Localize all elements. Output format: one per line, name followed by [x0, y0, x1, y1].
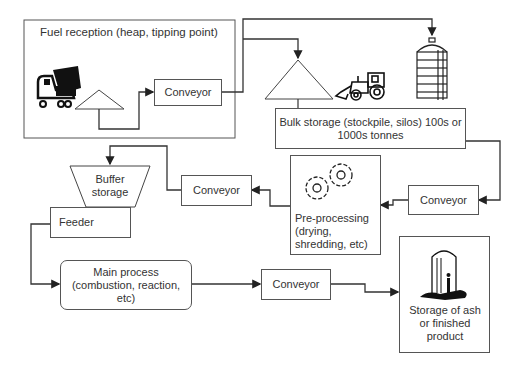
connector-conveyor-preprocessing [381, 200, 408, 205]
connector-conveyor-silo [221, 19, 432, 92]
pre-processing-box: Pre-processing (drying, shredding, etc) [290, 155, 381, 255]
bulk-storage-label: Bulk storage (stockpile, silos) 100s or … [278, 116, 463, 142]
conveyor-1-label: Conveyor [164, 86, 211, 99]
conveyor-3: Conveyor [181, 175, 252, 206]
connector-conveyor-stockpile [243, 39, 298, 58]
conveyor-2-label: Conveyor [420, 194, 467, 207]
heap-icon [75, 90, 124, 109]
feeder-box: Feeder [50, 207, 131, 238]
fuel-reception-label: Fuel reception (heap, tipping point) [40, 26, 220, 39]
conveyor-3-label: Conveyor [193, 184, 240, 197]
stockpile-icon [265, 60, 333, 99]
buffer-storage-label: Buffer storage [88, 173, 132, 199]
connector-conveyor-ash [330, 284, 398, 292]
loader-icon [336, 73, 384, 100]
conveyor-2: Conveyor [408, 185, 479, 215]
pre-processing-label: Pre-processing (drying, shredding, etc) [295, 212, 375, 251]
ash-storage-box: Storage of ash or finished product [399, 236, 490, 353]
conveyor-4: Conveyor [261, 269, 331, 300]
main-process-label: Main process (combustion, reaction, etc) [66, 266, 186, 305]
dump-truck-icon [38, 66, 81, 107]
main-process-box: Main process (combustion, reaction, etc) [60, 260, 192, 310]
feeder-label: Feeder [59, 216, 94, 229]
connector-preprocessing-conveyor [252, 190, 290, 206]
conveyor-1: Conveyor [154, 79, 222, 106]
bulk-storage-box: Bulk storage (stockpile, silos) 100s or … [275, 108, 466, 149]
conveyor-4-label: Conveyor [272, 278, 319, 291]
silo-icon [417, 38, 447, 100]
ash-storage-label: Storage of ash or finished product [404, 304, 486, 343]
